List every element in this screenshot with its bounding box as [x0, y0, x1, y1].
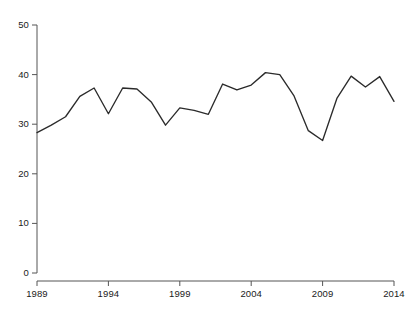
y-axis-ticks: [32, 25, 37, 273]
chart-container: 01020304050 198919941999200420092014: [0, 0, 414, 309]
chart-series-group: [37, 73, 394, 141]
x-axis-tick-label: 2004: [227, 289, 275, 299]
x-axis-tick-label: 2014: [370, 289, 414, 299]
data-line-series-1: [37, 73, 394, 141]
x-axis-tick-label: 2009: [299, 289, 347, 299]
y-axis-tick-label: 50: [18, 20, 29, 30]
y-axis-tick-label: 40: [18, 70, 29, 80]
y-axis-tick-label: 10: [18, 218, 29, 228]
chart-plot-area: [0, 0, 414, 309]
x-axis-ticks: [37, 281, 394, 286]
y-axis-tick-label: 0: [24, 268, 29, 278]
chart-axes: [32, 25, 394, 286]
x-axis-tick-label: 1989: [13, 289, 61, 299]
x-axis-tick-label: 1999: [156, 289, 204, 299]
x-axis-tick-label: 1994: [84, 289, 132, 299]
y-axis-tick-label: 20: [18, 169, 29, 179]
y-axis-tick-label: 30: [18, 119, 29, 129]
